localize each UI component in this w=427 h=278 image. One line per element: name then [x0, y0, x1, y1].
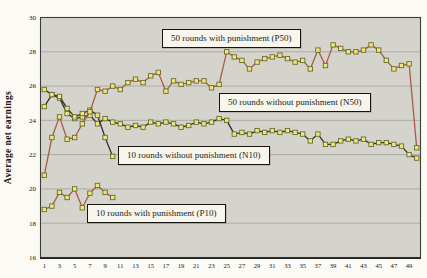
svg-text:47: 47 — [391, 262, 398, 269]
svg-text:20: 20 — [29, 185, 37, 193]
svg-text:33: 33 — [284, 262, 291, 269]
svg-text:41: 41 — [345, 262, 352, 269]
figure: 1618202224262830135791113151719212325272… — [0, 0, 427, 278]
svg-text:29: 29 — [254, 262, 261, 269]
svg-text:43: 43 — [360, 262, 367, 269]
svg-text:22: 22 — [29, 151, 37, 159]
svg-text:13: 13 — [132, 262, 139, 269]
svg-text:28: 28 — [29, 48, 37, 56]
svg-text:21: 21 — [193, 262, 200, 269]
svg-text:45: 45 — [375, 262, 382, 269]
y-axis-title: Average net earnings — [3, 72, 16, 204]
annotation-n50: 50 rounds without punishment (N50) — [219, 93, 371, 112]
svg-text:49: 49 — [406, 262, 413, 269]
svg-text:39: 39 — [330, 262, 337, 269]
annotation-p50: 50 rounds with punishment (P50) — [162, 29, 301, 48]
svg-text:25: 25 — [223, 262, 230, 269]
svg-text:23: 23 — [208, 262, 215, 269]
svg-text:9: 9 — [103, 262, 107, 269]
svg-text:37: 37 — [315, 262, 322, 269]
svg-text:31: 31 — [269, 262, 276, 269]
svg-text:35: 35 — [299, 262, 306, 269]
annotation-p10: 10 rounds with punishment (P10) — [87, 204, 226, 223]
svg-text:17: 17 — [163, 262, 170, 269]
svg-text:11: 11 — [117, 262, 123, 269]
svg-text:26: 26 — [29, 82, 37, 90]
svg-text:27: 27 — [239, 262, 246, 269]
svg-text:7: 7 — [88, 262, 92, 269]
svg-text:19: 19 — [178, 262, 185, 269]
svg-text:3: 3 — [58, 262, 62, 269]
svg-text:16: 16 — [29, 254, 37, 262]
svg-text:5: 5 — [73, 262, 77, 269]
annotation-n10: 10 rounds without punishment (N10) — [118, 146, 270, 165]
svg-text:1: 1 — [43, 262, 46, 269]
svg-text:18: 18 — [29, 220, 37, 228]
svg-text:30: 30 — [29, 14, 37, 22]
svg-text:24: 24 — [29, 117, 37, 125]
svg-text:15: 15 — [147, 262, 154, 269]
